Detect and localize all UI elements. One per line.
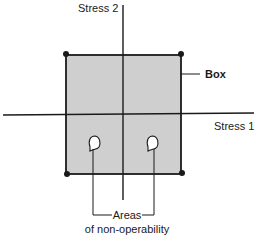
corner-dot-top-left (63, 51, 69, 57)
box-label: Box (205, 68, 227, 80)
corner-dot-bottom-left (64, 171, 70, 177)
stress-2-label: Stress 2 (78, 2, 118, 14)
corner-dot-bottom-right (179, 170, 185, 176)
callout-label-line1: Areas (113, 209, 142, 221)
callout-label-line2: of non-operability (85, 223, 170, 235)
corner-dot-top-right (178, 51, 184, 57)
operating-window-diagram: Stress 2 Stress 1 Box Areas of non-opera… (0, 0, 258, 243)
stress-1-label: Stress 1 (214, 120, 254, 132)
stress-1-axis (3, 113, 254, 115)
